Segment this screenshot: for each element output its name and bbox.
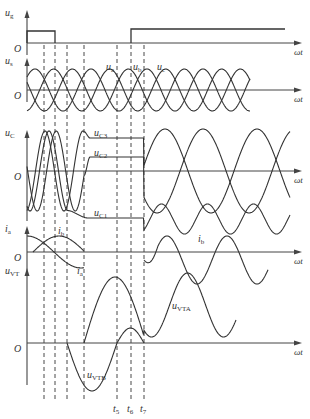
x-axis-arrow-icon <box>294 41 302 46</box>
x-axis-arrow-icon <box>294 250 302 255</box>
waveform-canvas <box>0 0 310 419</box>
time-label-t5: t5 <box>113 404 119 416</box>
time-label-t7: t7 <box>140 404 146 416</box>
x-axis-label-i: ωt <box>294 257 303 266</box>
origin-label-i: O <box>14 253 21 263</box>
uC1-curve <box>27 131 290 234</box>
phase-label-a: ua <box>106 62 114 74</box>
x-axis-arrow-icon <box>294 88 302 93</box>
x-axis-arrow-icon <box>294 169 302 174</box>
curve-label-b: ib <box>198 234 204 246</box>
curve-label-C1: uC1 <box>94 208 107 220</box>
origin-label-us: O <box>14 91 21 101</box>
curve-label-VTB: uVTB <box>87 370 106 382</box>
x-axis-label-us: ωt <box>294 95 303 104</box>
ib-late-curve <box>144 236 268 284</box>
y-axis-arrow-icon <box>25 226 30 234</box>
curve-label-C3: uC3 <box>94 128 107 140</box>
uVTA-curve <box>84 273 236 343</box>
y-axis-label-uC: uC <box>5 128 15 140</box>
ib-curve <box>33 236 84 252</box>
waveform-diagram: ugOωtusOωtuaubucuCOωtuC3uC2uC1iaOωtibiai… <box>0 0 310 419</box>
y-axis-arrow-icon <box>25 268 30 276</box>
y-axis-label-ug: ug <box>5 8 14 20</box>
origin-label-ug: O <box>14 44 21 54</box>
gate-pulse <box>27 31 55 43</box>
phase-label-c: uc <box>157 62 165 74</box>
x-axis-arrow-icon <box>294 341 302 346</box>
x-axis-label-uVT: ωt <box>294 348 303 357</box>
origin-label-uVT: O <box>14 344 21 354</box>
curve-label-a: ia <box>77 266 83 278</box>
curve-label-C2: uC2 <box>94 148 107 160</box>
x-axis-label-ug: ωt <box>294 48 303 57</box>
x-axis-label-uC: ωt <box>294 176 303 185</box>
origin-label-uC: O <box>14 172 21 182</box>
curve-label-VTA: uVTA <box>172 301 191 313</box>
y-axis-arrow-icon <box>25 58 30 66</box>
time-label-t6: t6 <box>127 404 133 416</box>
y-axis-arrow-icon <box>25 130 30 138</box>
y-axis-arrow-icon <box>25 10 30 18</box>
y-axis-label-uVT: uVT <box>5 266 19 278</box>
phase-label-b: ub <box>133 62 142 74</box>
y-axis-label-us: us <box>5 56 13 68</box>
y-axis-label-i: ia <box>5 224 11 236</box>
curve-label-b: ib <box>58 226 64 238</box>
gate-pulse-2 <box>131 29 285 43</box>
